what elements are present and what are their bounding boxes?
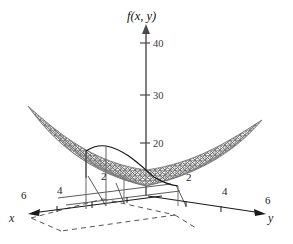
y-tick-label-4: 4	[222, 185, 228, 197]
paraboloid-surface	[28, 106, 262, 186]
function-label: f(x, y)	[127, 9, 156, 23]
y-tick-label-2: 2	[186, 171, 192, 183]
plot-canvas: f(x, y) 40 30 20 6 4 2 2 4 6 x y	[0, 0, 293, 244]
x-tick-label-2: 2	[101, 170, 107, 182]
x-tick-label-6: 6	[21, 189, 27, 201]
y-axis-label: y	[267, 211, 274, 225]
y-tick-label-6: 6	[265, 194, 271, 206]
z-tick-label-20: 20	[153, 138, 164, 149]
x-axis-label: x	[8, 211, 15, 225]
base-plane-dashed-outline	[31, 199, 196, 231]
z-axis-ticks	[140, 43, 150, 143]
z-tick-label-30: 30	[153, 90, 164, 101]
x-axis	[28, 196, 162, 216]
z-tick-label-40: 40	[153, 38, 164, 49]
x-tick-label-4: 4	[57, 184, 63, 196]
surface-plot-figure: f(x, y) 40 30 20 6 4 2 2 4 6 x y	[0, 0, 293, 244]
